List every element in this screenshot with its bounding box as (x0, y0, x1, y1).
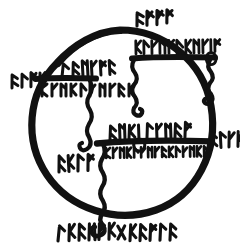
runic-circle-sigil (0, 0, 240, 250)
upper-right-bar (132, 57, 215, 59)
sigil-canvas: Runic Circle Sigil A thick hand-drawn ci… (0, 0, 240, 250)
upper-left-bar (36, 78, 97, 79)
center-bar (97, 141, 212, 144)
